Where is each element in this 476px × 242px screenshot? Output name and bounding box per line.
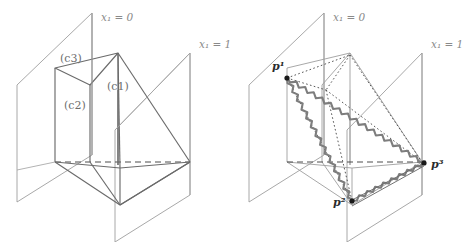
right-point-label-p2: p²	[333, 196, 346, 209]
right-panel-graphic: x₁ = 0 x₁ = 1 p¹ p² p³	[0, 0, 476, 242]
right-plane-x1-eq-0	[249, 13, 324, 202]
point-marker-p1	[284, 75, 289, 80]
figure-container: x₁ = 0 x₁ = 1 (c1) (c2) (c3)	[0, 0, 476, 242]
right-point-label-p1: p¹	[272, 60, 285, 73]
point-marker-p3	[421, 160, 426, 165]
right-dotted-construction	[287, 55, 422, 201]
right-polyhedron-outline	[287, 53, 422, 205]
right-vertex-markers	[284, 75, 426, 203]
right-plane-label-x1-eq-1: x₁ = 1	[431, 38, 463, 50]
point-marker-p2	[349, 198, 354, 203]
right-wavy-triangle	[287, 78, 425, 201]
right-plane-x1-eq-1	[347, 53, 422, 242]
right-point-label-p3: p³	[431, 158, 444, 171]
right-plane-label-x1-eq-0: x₁ = 0	[333, 11, 366, 23]
